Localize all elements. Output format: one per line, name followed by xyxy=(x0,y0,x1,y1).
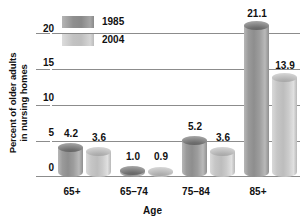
value-label-2004-65plus: 3.6 xyxy=(82,132,116,143)
bar-2004-75-84 xyxy=(210,151,235,177)
legend-item-1985[interactable]: 1985 xyxy=(62,14,124,29)
bar-cap xyxy=(148,167,173,176)
value-label-2004-75-84: 3.6 xyxy=(206,132,240,143)
x-tick-label-65-74: 65–74 xyxy=(103,186,165,197)
legend-label-1985: 1985 xyxy=(102,16,124,27)
legend-swatch-1985-icon xyxy=(62,16,94,28)
legend: 1985 2004 xyxy=(62,14,124,50)
legend-swatch-2004-icon xyxy=(62,34,94,46)
value-label-2004-65-74: 0.9 xyxy=(144,151,178,162)
y-tick-label-0: 0 xyxy=(32,162,54,173)
bar-cap xyxy=(244,21,269,30)
bar-cap xyxy=(182,136,207,145)
y-axis-title-line-2: in nursing homes xyxy=(19,64,30,142)
y-tick-label-5: 5 xyxy=(32,127,54,138)
bar-1985-75-84 xyxy=(182,140,207,177)
bar-body xyxy=(244,25,269,177)
y-tick-mark-0 xyxy=(36,176,50,177)
x-tick-label-75-84: 75–84 xyxy=(165,186,227,197)
y-tick-label-10: 10 xyxy=(32,92,54,103)
value-label-2004-85plus: 13.9 xyxy=(268,60,302,71)
bar-cap xyxy=(210,147,235,156)
bar-cap xyxy=(120,166,145,175)
bar-cap xyxy=(272,73,297,82)
y-tick-mark-20 xyxy=(36,33,50,34)
chart-container: Percent of older adults in nursing homes… xyxy=(0,0,305,223)
x-tick-label-85plus: 85+ xyxy=(227,186,289,197)
y-axis-title: Percent of older adults in nursing homes xyxy=(4,28,34,178)
bar-2004-65plus xyxy=(86,151,111,177)
value-label-1985-85plus: 21.1 xyxy=(240,8,274,19)
bar-cap xyxy=(86,147,111,156)
bar-1985-65plus xyxy=(58,147,83,177)
y-tick-mark-5 xyxy=(36,141,50,142)
bar-body xyxy=(182,140,207,177)
value-label-1985-75-84: 5.2 xyxy=(178,121,212,132)
legend-label-2004: 2004 xyxy=(102,34,124,45)
bar-2004-85plus xyxy=(272,77,297,177)
y-tick-mark-15 xyxy=(36,69,50,70)
bar-cap xyxy=(58,143,83,152)
bar-body xyxy=(272,77,297,177)
legend-item-2004[interactable]: 2004 xyxy=(62,32,124,47)
y-tick-mark-10 xyxy=(36,105,50,106)
x-tick-label-65plus: 65+ xyxy=(41,186,103,197)
y-tick-label-15: 15 xyxy=(32,57,54,68)
x-axis-title: Age xyxy=(0,205,305,216)
bar-1985-85plus xyxy=(244,25,269,177)
